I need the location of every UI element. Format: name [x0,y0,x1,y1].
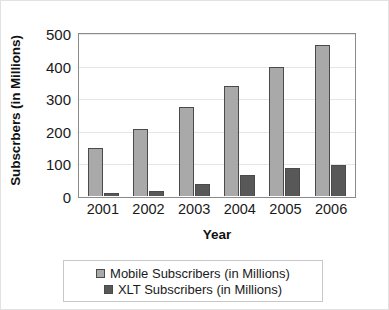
bar [133,129,148,196]
bar [331,165,346,196]
y-axis-tick-label: 0 [63,189,71,206]
x-axis-tick-label: 2001 [86,201,119,223]
y-axis-title-text: Subscrbers (in Millions) [8,35,23,186]
bar [179,107,194,196]
bar [315,45,330,196]
y-axis-tick-label: 100 [46,156,71,173]
bar [195,184,210,196]
x-axis-tick-label: 2003 [178,201,211,223]
y-axis-tick-label: 200 [46,123,71,140]
bar [224,86,239,196]
bar-group [315,34,346,196]
bar-group [88,34,119,196]
bar-group [224,34,255,196]
y-axis-tick-label: 300 [46,91,71,108]
x-axis-tick-label: 2002 [132,201,165,223]
x-axis-tick-labels: 200120022003200420052006 [78,201,356,223]
y-axis-title: Subscrbers (in Millions) [3,15,27,205]
x-axis-title: Year [78,227,356,242]
bar-group [269,34,300,196]
legend-swatch-icon [96,269,105,278]
bar [240,175,255,196]
bar-group [133,34,164,196]
bar [88,148,103,196]
legend-item-label: Mobile Subscribers (in Millions) [110,266,290,281]
bar [104,193,119,196]
chart-figure: Subscrbers (in Millions) 010020030040050… [0,0,389,310]
bar-groups [79,34,355,196]
y-axis-tick-label: 400 [46,58,71,75]
chart-legend: Mobile Subscribers (in Millions)XLT Subs… [63,260,323,302]
legend-item[interactable]: XLT Subscribers (in Millions) [104,282,282,297]
x-axis-tick-label: 2005 [269,201,302,223]
bar-group [179,34,210,196]
y-axis-tick-labels: 0100200300400500 [29,34,75,197]
bar [149,191,164,196]
legend-swatch-icon [104,285,113,294]
y-axis-tick-label: 500 [46,26,71,43]
legend-item[interactable]: Mobile Subscribers (in Millions) [96,266,290,281]
plot-area [78,33,356,198]
legend-item-label: XLT Subscribers (in Millions) [118,282,282,297]
bar [285,168,300,196]
bar [269,67,284,196]
x-axis-tick-label: 2004 [223,201,256,223]
x-axis-tick-label: 2006 [315,201,348,223]
